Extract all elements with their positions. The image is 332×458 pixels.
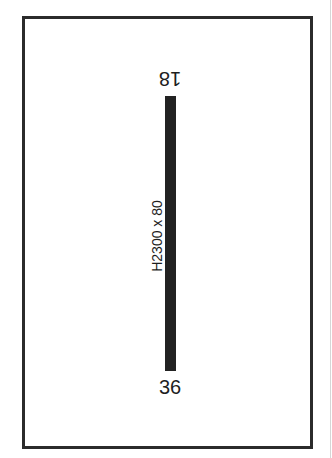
- runway-strip: [165, 96, 176, 371]
- runway-end-label-north: 18: [155, 69, 185, 89]
- page-edge-line: [330, 0, 331, 458]
- runway-dimensions-label: H2300 x 80: [150, 200, 164, 272]
- runway-end-label-south: 36: [155, 377, 185, 397]
